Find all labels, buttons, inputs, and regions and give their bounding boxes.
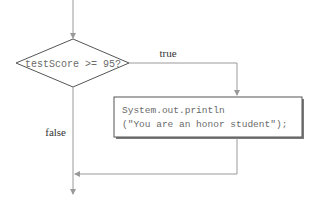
flowchart-canvas: testScore >= 95? true System.out.println… bbox=[0, 0, 317, 204]
true-label: true bbox=[159, 47, 176, 59]
action-box bbox=[114, 97, 302, 137]
false-label: false bbox=[45, 126, 66, 138]
merge-line bbox=[75, 138, 237, 174]
decision-label: testScore >= 95? bbox=[25, 59, 121, 70]
action-line-1: System.out.println bbox=[122, 105, 225, 116]
true-branch-line bbox=[129, 63, 237, 95]
action-line-2: ("You are an honor student"); bbox=[122, 119, 287, 130]
